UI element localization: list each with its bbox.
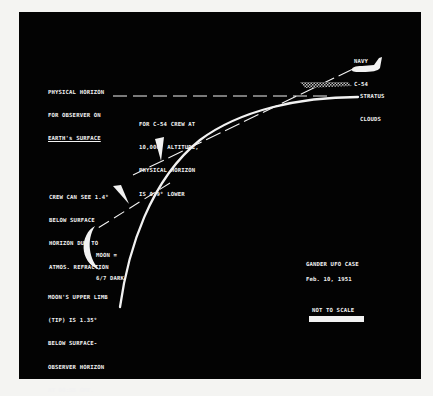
scale-note: NOT TO SCALE <box>312 307 354 315</box>
crew-horizon-label: FOR C-54 CREW AT 10,000' ALTITUDE, PHYSI… <box>139 105 199 206</box>
stratus-clouds-label: STRATUS CLOUDS <box>360 77 385 132</box>
case-title: GANDER UFO CASE <box>306 261 359 269</box>
case-date: Feb. 10, 1951 <box>306 276 352 284</box>
scale-bar <box>309 316 364 322</box>
refraction-pointer <box>113 185 129 204</box>
moon-limb-label: MOON'S UPPER LIMB (TIP) IS 1.35° BELOW S… <box>48 278 108 396</box>
stratus-cloud-layer <box>300 82 352 88</box>
physical-horizon-label: PHYSICAL HORIZON FOR OBSERVER ON EARTH's… <box>48 73 104 151</box>
